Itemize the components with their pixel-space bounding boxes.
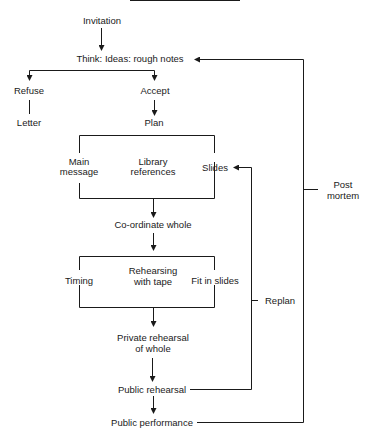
node-plan: Plan — [144, 117, 163, 128]
node-main-message-line2: message — [60, 166, 99, 177]
node-fit-in-slides: Fit in slides — [191, 275, 239, 286]
node-invitation: Invitation — [83, 15, 121, 26]
label-post-mortem-line2: mortem — [327, 190, 359, 201]
node-public-performance: Public performance — [111, 417, 193, 428]
node-library-line2: references — [131, 166, 176, 177]
node-rehearsing-line1: Rehearsing — [129, 265, 178, 276]
node-timing: Timing — [65, 275, 93, 286]
node-private-rehearsal-line2: of whole — [135, 343, 170, 354]
node-private-rehearsal-line1: Private rehearsal — [117, 332, 189, 343]
node-public-rehearsal: Public rehearsal — [118, 384, 186, 395]
node-coordinate-whole: Co-ordinate whole — [114, 219, 191, 230]
node-slides: Slides — [202, 162, 228, 173]
node-accept: Accept — [140, 85, 169, 96]
label-post-mortem-line1: Post — [333, 179, 352, 190]
node-refuse: Refuse — [14, 85, 44, 96]
node-think: Think: Ideas: rough notes — [76, 53, 183, 64]
node-rehearsing-line2: with tape — [134, 276, 172, 287]
node-letter: Letter — [17, 117, 41, 128]
label-replan: Replan — [265, 295, 295, 306]
